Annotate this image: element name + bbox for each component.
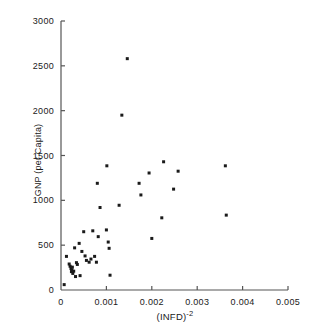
- data-point: [80, 250, 83, 253]
- data-point: [126, 57, 129, 60]
- data-point: [72, 270, 75, 273]
- y-axis-tick-label: 500: [8, 240, 54, 250]
- x-axis-title: (INFD)-2: [157, 309, 194, 322]
- y-axis-tick-label: 2500: [8, 61, 54, 71]
- data-point: [224, 164, 227, 167]
- axis-lines: [61, 21, 288, 290]
- data-point: [89, 258, 92, 261]
- data-point: [107, 241, 110, 244]
- x-axis-tick-label: 0.001: [94, 297, 118, 307]
- y-axis-tick-label: 3000: [8, 16, 54, 26]
- x-axis-tick-label: 0.005: [276, 297, 300, 307]
- data-point: [71, 266, 74, 269]
- data-point: [82, 230, 85, 233]
- data-point: [162, 160, 165, 163]
- y-axis-tick-label: 2000: [8, 106, 54, 116]
- data-point: [99, 206, 102, 209]
- data-point: [177, 170, 180, 173]
- data-point: [95, 261, 98, 264]
- data-point: [78, 242, 81, 245]
- x-axis-tick-label: 0.003: [185, 297, 209, 307]
- data-point: [160, 216, 163, 219]
- data-point: [96, 182, 99, 185]
- y-axis-tick-label: 1500: [8, 151, 54, 161]
- data-point: [93, 255, 96, 258]
- data-point: [225, 214, 228, 217]
- data-point: [139, 193, 142, 196]
- data-point: [108, 247, 111, 250]
- data-point: [73, 246, 76, 249]
- data-point: [105, 228, 108, 231]
- data-point: [172, 188, 175, 191]
- x-axis-tick-label: 0.004: [231, 297, 255, 307]
- scatter-plot-figure: 050010001500200025003000 00.0010.0020.00…: [0, 0, 314, 331]
- data-point: [85, 259, 88, 262]
- y-axis-title: GNP (per Capita): [33, 124, 43, 197]
- data-point: [76, 263, 79, 266]
- data-point: [79, 274, 82, 277]
- data-point: [65, 255, 68, 258]
- y-axis-tick-label: 0: [8, 285, 54, 295]
- data-point: [118, 204, 121, 207]
- data-point: [138, 182, 141, 185]
- data-point: [91, 229, 94, 232]
- data-point: [97, 235, 100, 238]
- data-point: [84, 254, 87, 257]
- x-axis-tick-label: 0: [58, 297, 63, 307]
- plot-canvas: [0, 0, 314, 331]
- y-axis-tick-label: 1000: [8, 195, 54, 205]
- data-point: [150, 237, 153, 240]
- data-point: [120, 114, 123, 117]
- data-point: [88, 261, 91, 264]
- x-axis-title-exponent: -2: [186, 309, 193, 318]
- data-point: [63, 283, 66, 286]
- data-point: [148, 171, 151, 174]
- data-point: [74, 275, 77, 278]
- data-point: [109, 274, 112, 277]
- x-axis-tick-label: 0.002: [140, 297, 164, 307]
- data-point: [105, 164, 108, 167]
- data-point-series: [63, 57, 228, 286]
- x-axis-title-base: (INFD): [157, 311, 187, 322]
